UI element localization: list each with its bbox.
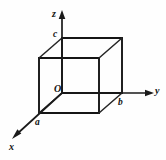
point-label-b: b [118, 98, 123, 108]
axis-label-y: y [155, 86, 159, 96]
axis-label-z: z [52, 9, 56, 19]
axis-y-arrowhead [145, 90, 154, 97]
cube-edge-depth-top-left [39, 38, 62, 58]
axis-y [62, 90, 154, 97]
point-label-c: c [53, 30, 57, 40]
cube-edge-depth-top-right [99, 38, 122, 58]
figure-canvas [0, 0, 166, 160]
axes-cube-figure: z y x O c b a [0, 0, 166, 160]
axis-x [12, 93, 62, 139]
axis-z [59, 10, 66, 93]
axis-z-arrowhead [59, 10, 66, 19]
axis-label-x: x [9, 142, 14, 152]
point-label-origin: O [54, 84, 61, 94]
point-label-a: a [35, 118, 40, 128]
